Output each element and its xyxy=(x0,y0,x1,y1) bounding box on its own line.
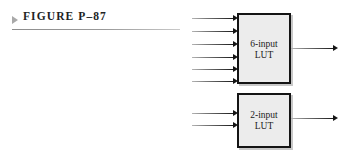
input-signal-8 xyxy=(192,124,238,127)
input-signal-6 xyxy=(192,80,238,83)
input-signal-7 xyxy=(192,112,238,115)
block-label-line1: 6-input xyxy=(250,39,277,49)
block-6-input-lut-label: 6-input LUT xyxy=(239,39,289,61)
block-label-line2: LUT xyxy=(255,121,273,131)
block-2-input-lut: 2-input LUT xyxy=(237,93,291,148)
triangle-right-icon xyxy=(12,16,18,24)
signal-shaft xyxy=(192,69,233,70)
input-signal-4 xyxy=(192,56,238,59)
signal-shaft xyxy=(192,113,233,114)
figure-caption-text: FIGURE P–87 xyxy=(23,10,107,22)
block-6-input-lut: 6-input LUT xyxy=(237,13,291,84)
signal-shaft xyxy=(192,31,233,32)
figure-canvas: FIGURE P–87 6-input LUT xyxy=(0,0,353,156)
input-signal-2 xyxy=(192,30,238,33)
caption-divider xyxy=(12,29,180,30)
input-signal-5 xyxy=(192,68,238,71)
signal-shaft xyxy=(291,48,333,49)
signal-shaft xyxy=(291,118,333,119)
arrowhead-icon xyxy=(333,115,338,121)
signal-shaft xyxy=(192,81,233,82)
block-label-line2: LUT xyxy=(255,50,273,60)
input-signal-1 xyxy=(192,17,238,20)
output-signal-2-input-lut xyxy=(291,117,338,120)
output-signal-6-input-lut xyxy=(291,47,338,50)
block-2-input-lut-label: 2-input LUT xyxy=(239,110,289,132)
signal-shaft xyxy=(192,125,233,126)
arrowhead-icon xyxy=(333,45,338,51)
signal-shaft xyxy=(192,57,233,58)
block-label-line1: 2-input xyxy=(250,110,277,120)
signal-shaft xyxy=(192,44,233,45)
input-signal-3 xyxy=(192,43,238,46)
signal-shaft xyxy=(192,18,233,19)
